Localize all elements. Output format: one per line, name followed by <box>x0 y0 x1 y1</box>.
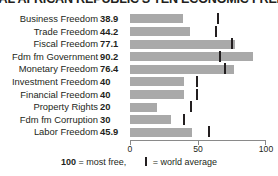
row-value: 20 <box>100 101 125 112</box>
bar <box>130 90 184 99</box>
row-plot-area <box>130 114 266 127</box>
row-label-trade-freedom: Trade Freedom <box>0 26 98 37</box>
row-value: 44.2 <box>100 26 125 37</box>
bar <box>130 115 171 124</box>
world-average-marker <box>208 126 210 137</box>
chart-row: Fdm fm Corruption30 <box>0 114 278 127</box>
legend-most-free-value: 100 <box>61 157 76 167</box>
chart-row: Fiscal Freedom77.1 <box>0 38 278 51</box>
chart-rows: Business Freedom38.9Trade Freedom44.2Fis… <box>0 13 278 139</box>
row-label-fiscal-freedom: Fiscal Freedom <box>0 38 98 49</box>
world-average-tick-icon <box>145 157 147 166</box>
world-average-marker <box>224 63 226 74</box>
world-average-marker <box>231 38 233 49</box>
world-average-marker <box>215 26 217 37</box>
row-label-labor-freedom: Labor Freedom <box>0 126 98 137</box>
row-value: 30 <box>100 114 125 125</box>
world-average-marker <box>183 114 185 125</box>
world-average-marker <box>190 101 192 112</box>
bar <box>130 128 192 137</box>
chart-row: Business Freedom38.9 <box>0 13 278 26</box>
world-average-marker <box>217 13 219 24</box>
row-plot-area <box>130 63 266 76</box>
row-label-investment-freedom: Investment Freedom <box>0 76 98 87</box>
row-label-fdm-fm-corruption: Fdm fm Corruption <box>0 114 98 125</box>
legend-world-average-text: = world average <box>153 157 217 167</box>
legend-most-free-text: = most free, <box>78 157 126 167</box>
row-plot-area <box>130 13 266 26</box>
row-plot-area <box>130 89 266 102</box>
chart-row: Financial Freedom40 <box>0 89 278 102</box>
row-plot-area <box>130 76 266 89</box>
row-plot-area <box>130 101 266 114</box>
economic-freedoms-chart: CENTRAL AFRICAN REPUBLIC'S TEN ECONOMIC … <box>0 0 278 176</box>
row-label-fdm-fm-government: Fdm fm Government <box>0 51 98 62</box>
chart-row: Fdm fm Government90.2 <box>0 51 278 64</box>
bar <box>130 14 183 23</box>
row-value: 90.2 <box>100 51 125 62</box>
row-plot-area <box>130 51 266 64</box>
bar <box>130 40 235 49</box>
row-label-financial-freedom: Financial Freedom <box>0 89 98 100</box>
chart-row: Labor Freedom45.9 <box>0 126 278 139</box>
bar <box>130 65 234 74</box>
row-value: 40 <box>100 76 125 87</box>
row-plot-area <box>130 126 266 139</box>
bar <box>130 27 190 36</box>
row-value: 76.4 <box>100 63 125 74</box>
chart-legend: 100 = most free, = world average <box>0 156 278 168</box>
chart-row: Investment Freedom40 <box>0 76 278 89</box>
axis-tick-label: 100 <box>259 144 273 154</box>
x-axis-tick-labels: 050100 <box>0 141 278 153</box>
world-average-marker <box>196 89 198 100</box>
row-plot-area <box>130 26 266 39</box>
row-value: 38.9 <box>100 13 125 24</box>
axis-tick-label: 50 <box>193 144 203 154</box>
world-average-marker <box>196 76 198 87</box>
row-label-business-freedom: Business Freedom <box>0 13 98 24</box>
chart-row: Trade Freedom44.2 <box>0 26 278 39</box>
row-value: 40 <box>100 89 125 100</box>
world-average-marker <box>219 51 221 62</box>
bar <box>130 77 184 86</box>
chart-row: Property Rights20 <box>0 101 278 114</box>
row-plot-area <box>130 38 266 51</box>
row-value: 77.1 <box>100 38 125 49</box>
chart-title-container: CENTRAL AFRICAN REPUBLIC'S TEN ECONOMIC … <box>0 0 278 9</box>
bar <box>130 103 157 112</box>
page-title: CENTRAL AFRICAN REPUBLIC'S TEN ECONOMIC … <box>0 0 278 6</box>
row-label-property-rights: Property Rights <box>0 101 98 112</box>
chart-row: Monetary Freedom76.4 <box>0 63 278 76</box>
bar <box>130 52 253 61</box>
axis-tick-label: 0 <box>128 144 133 154</box>
row-value: 45.9 <box>100 126 125 137</box>
row-label-monetary-freedom: Monetary Freedom <box>0 63 98 74</box>
